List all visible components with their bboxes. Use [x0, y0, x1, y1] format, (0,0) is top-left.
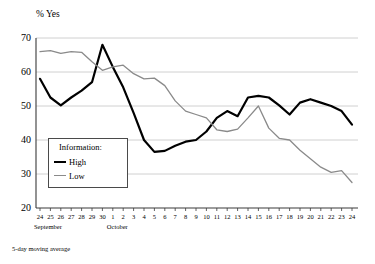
y-tick-30: 30 — [9, 169, 31, 179]
legend-title: Information: — [59, 142, 102, 153]
chart-container: % Yes 203040506070 242526272829301234567… — [0, 0, 375, 264]
month-label-october: October — [107, 223, 128, 231]
series-line-high — [40, 45, 352, 152]
y-tick-20: 20 — [9, 203, 31, 213]
legend-label-low: Low — [69, 170, 85, 183]
legend-label-high: High — [69, 156, 86, 169]
y-tick-60: 60 — [9, 67, 31, 77]
chart-legend: Information: High Low — [48, 138, 128, 188]
y-tick-50: 50 — [9, 101, 31, 111]
legend-swatch-low-icon — [54, 175, 66, 176]
x-tick-30: 24 — [345, 213, 359, 221]
y-tick-70: 70 — [9, 33, 31, 43]
legend-swatch-high-icon — [54, 161, 66, 163]
month-label-september: September — [34, 223, 62, 231]
y-tick-40: 40 — [9, 135, 31, 145]
chart-footnote: 5-day moving average — [12, 245, 70, 253]
